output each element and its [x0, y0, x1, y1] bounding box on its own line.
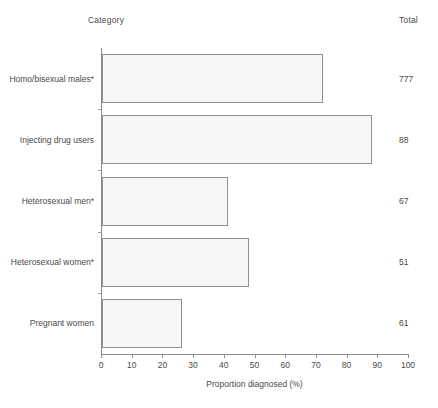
total-column-header: Total	[399, 15, 418, 25]
value-axis-tick	[132, 354, 133, 358]
category-tick-label: Heterosexual women*	[11, 257, 94, 267]
value-axis-tick-label: 10	[127, 360, 136, 370]
bar	[102, 299, 182, 348]
value-axis-tick	[162, 354, 163, 358]
bar	[102, 54, 323, 103]
category-column-header: Category	[88, 15, 124, 25]
category-axis-tick	[98, 232, 102, 233]
x-axis-title: Proportion diagnosed (%)	[101, 379, 408, 389]
value-axis-tick	[377, 354, 378, 358]
value-axis-tick	[316, 354, 317, 358]
total-value: 88	[399, 135, 408, 145]
category-tick-label: Pregnant women	[30, 318, 94, 328]
value-axis-tick	[285, 354, 286, 358]
bar	[102, 115, 372, 164]
value-axis-tick-label: 20	[158, 360, 167, 370]
value-axis-tick	[408, 354, 409, 358]
value-axis-tick	[255, 354, 256, 358]
value-axis-tick	[224, 354, 225, 358]
bar	[102, 238, 249, 287]
value-axis-tick	[193, 354, 194, 358]
category-axis-tick	[98, 170, 102, 171]
value-axis-tick	[101, 354, 102, 358]
category-tick-label: Heterosexual men*	[22, 196, 94, 206]
category-axis-tick	[98, 293, 102, 294]
plot-area: 0102030405060708090100 Proportion diagno…	[101, 48, 408, 354]
total-value: 67	[399, 196, 408, 206]
value-axis-tick	[347, 354, 348, 358]
value-axis-tick-label: 40	[219, 360, 228, 370]
value-axis-tick-label: 80	[342, 360, 351, 370]
value-axis-tick-label: 0	[99, 360, 104, 370]
bar	[102, 177, 228, 226]
total-value: 777	[399, 74, 413, 84]
total-value: 51	[399, 257, 408, 267]
category-tick-label: Injecting drug users	[20, 135, 94, 145]
category-axis-tick	[98, 109, 102, 110]
value-axis-tick-label: 30	[188, 360, 197, 370]
value-axis-tick-label: 50	[250, 360, 259, 370]
value-axis-tick-label: 70	[311, 360, 320, 370]
value-axis-tick-label: 90	[373, 360, 382, 370]
category-tick-label: Homo/bisexual males*	[9, 74, 94, 84]
bar-chart-figure: Category Total 0102030405060708090100 Pr…	[0, 0, 438, 408]
total-value: 61	[399, 318, 408, 328]
value-axis-tick-label: 60	[280, 360, 289, 370]
value-axis-tick-label: 100	[401, 360, 415, 370]
